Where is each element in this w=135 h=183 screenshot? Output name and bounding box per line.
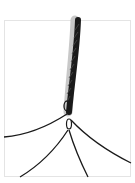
- strand: [4, 114, 67, 137]
- strand: [69, 130, 88, 177]
- cord-photo: [0, 0, 135, 183]
- strand: [71, 120, 131, 163]
- strand: [20, 130, 68, 177]
